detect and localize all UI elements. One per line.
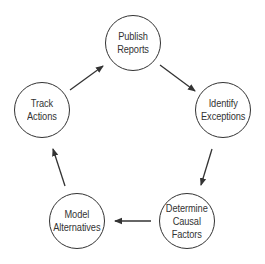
node-determine-causal-factors: Determine Causal Factors: [159, 193, 215, 249]
arrow-track-to-publish: [70, 66, 103, 90]
arrow-publish-to-identify: [160, 65, 195, 91]
node-model-alternatives: Model Alternatives: [49, 193, 105, 249]
node-label: Track Actions: [27, 97, 57, 123]
cycle-diagram: Publish Reports Identify Exceptions Dete…: [0, 0, 265, 264]
node-track-actions: Track Actions: [14, 82, 70, 138]
node-label: Model Alternatives: [53, 208, 100, 234]
node-label: Identify Exceptions: [201, 97, 245, 123]
arrow-model-to-track: [53, 149, 65, 186]
node-publish-reports: Publish Reports: [105, 15, 161, 71]
node-identify-exceptions: Identify Exceptions: [195, 82, 251, 138]
node-label: Publish Reports: [117, 30, 149, 56]
arrow-identify-to-determine: [201, 149, 212, 185]
node-label: Determine Causal Factors: [166, 202, 208, 241]
